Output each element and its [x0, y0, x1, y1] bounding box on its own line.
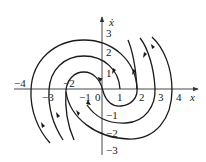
arrow-icon — [151, 44, 155, 49]
x-axis-label: x — [189, 91, 195, 103]
y-tick: −2 — [106, 127, 118, 139]
arrow-icon — [56, 112, 60, 118]
origin-label: 0 — [95, 91, 101, 103]
arrow-icon — [143, 52, 147, 58]
x-tick-labels: −4 −3 −2 −1 0 1 2 3 4 — [14, 77, 182, 103]
y-tick: −1 — [106, 109, 118, 121]
y-tick: 3 — [106, 27, 112, 39]
arrow-icon — [41, 122, 45, 128]
y-tick: 2 — [106, 46, 112, 58]
x-tick: −1 — [79, 91, 91, 103]
x-tick: −2 — [63, 77, 75, 89]
trajectories — [31, 37, 172, 143]
x-tick: 3 — [158, 91, 164, 103]
x-tick: 2 — [139, 91, 145, 103]
x-tick: 4 — [176, 91, 182, 103]
x-tick: −3 — [42, 91, 54, 103]
phase-portrait-diagram: x ẋ −4 −3 −2 −1 0 1 2 3 4 3 2 1 −1 −2 −3 — [0, 0, 206, 162]
trajectory-middle-right — [87, 38, 155, 123]
y-tick: −3 — [106, 144, 118, 156]
y-tick: 1 — [106, 67, 112, 79]
x-tick: −4 — [14, 77, 26, 89]
x-tick: 1 — [117, 91, 123, 103]
